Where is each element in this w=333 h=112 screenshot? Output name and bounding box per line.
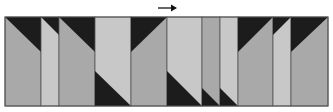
quilt-strip-diagram: [0, 0, 333, 112]
arrow-right-icon: [158, 5, 177, 12]
strip-columns: [5, 17, 328, 106]
